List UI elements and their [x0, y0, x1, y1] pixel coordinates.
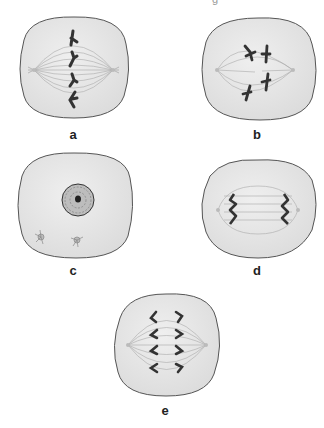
cell-d-telophase	[202, 160, 316, 258]
cell-b-prometaphase	[202, 18, 316, 120]
panel-label-a: a	[69, 128, 76, 141]
cell-e-anaphase	[114, 294, 219, 396]
cell-a-metaphase	[20, 17, 129, 118]
cell-c-interphase	[18, 153, 133, 258]
panel-label-c: c	[69, 264, 76, 277]
mitosis-diagram	[0, 0, 324, 428]
panel-label-d: d	[253, 264, 261, 277]
panel-label-b: b	[253, 128, 261, 141]
panel-label-e: e	[161, 404, 168, 417]
